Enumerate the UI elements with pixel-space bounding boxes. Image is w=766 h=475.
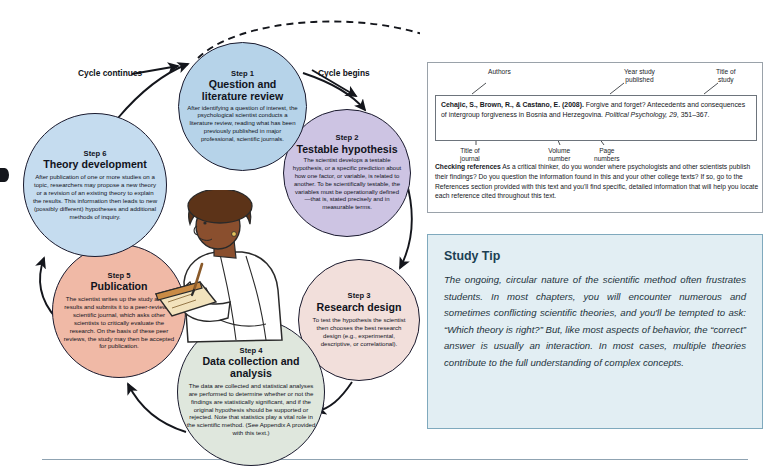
checking-references-heading: Checking references <box>435 163 501 170</box>
step-6-body: After publication of one or more studies… <box>32 173 158 221</box>
step-2-title: Testable hypothesis <box>296 144 397 156</box>
citation-journal: Political Psychology, <box>605 111 667 118</box>
citation-authors: Cehajic, S., Brown, R., & Castano, E. <box>441 101 560 108</box>
step-4-title: Data collection and analysis <box>186 356 316 379</box>
annotation-title-of-study: Title of study <box>716 68 736 84</box>
step-5-label: Step 5 <box>108 272 131 281</box>
citation-year: (2008). <box>562 101 584 108</box>
step-3-label: Step 3 <box>348 292 371 301</box>
study-tip-title: Study Tip <box>444 249 746 263</box>
step-4-body: The data are collected and statistical a… <box>186 382 316 437</box>
caption-cycle-continues: Cycle continues <box>78 68 142 78</box>
study-tip-box: Study Tip The ongoing, circular nature o… <box>427 234 763 429</box>
cycle-node-step-1[interactable]: Step 1 Question and literature review Af… <box>178 42 307 171</box>
arrow-step1-to-step2 <box>303 73 365 110</box>
scientific-method-cycle-diagram: Cycle continues Cycle begins Step 1 Ques… <box>0 0 420 475</box>
step-5-title: Publication <box>90 281 147 293</box>
caption-cycle-begins: Cycle begins <box>318 68 370 78</box>
annotation-authors: Authors <box>488 68 511 76</box>
citation-volume: 29 <box>669 111 677 118</box>
step-1-label: Step 1 <box>231 70 254 79</box>
page-edge-marker <box>0 168 9 182</box>
annotation-year-published: Year study published <box>624 68 655 84</box>
citation-pages: , 351–367. <box>677 111 710 118</box>
scientist-illustration <box>150 190 290 355</box>
annotation-volume-number: Volume number <box>548 147 570 163</box>
step-2-label: Step 2 <box>336 134 359 143</box>
annotation-page-numbers: Page numbers <box>594 147 620 163</box>
step-2-body: The scientist develops a testable hypoth… <box>292 157 402 212</box>
study-tip-body: The ongoing, circular nature of the scie… <box>444 272 746 371</box>
step-6-title: Theory development <box>43 159 147 171</box>
step-6-label: Step 6 <box>84 150 107 159</box>
page-footer-rule <box>42 459 748 460</box>
right-column: Authors Year study published Title of st… <box>424 0 766 475</box>
citation-example-box: Cehajic, S., Brown, R., & Castano, E. (2… <box>435 95 757 141</box>
cycle-node-step-6[interactable]: Step 6 Theory development After publicat… <box>23 113 167 257</box>
step-3-title: Research design <box>317 302 402 314</box>
checking-references-block: Checking references As a critical thinke… <box>435 162 759 201</box>
step-3-body: To test the hypothesis the scientist the… <box>307 316 411 348</box>
annotation-title-of-journal: Title of journal <box>460 147 480 163</box>
page-root: Cycle continues Cycle begins Step 1 Ques… <box>0 0 766 475</box>
citation-text: Cehajic, S., Brown, R., & Castano, E. (2… <box>441 100 751 121</box>
step-1-body: After identifying a question of interest… <box>187 105 298 144</box>
reference-anatomy-block: Authors Year study published Title of st… <box>427 62 763 213</box>
step-1-title: Question and literature review <box>187 79 298 102</box>
checking-references-text: Checking references As a critical thinke… <box>435 162 759 201</box>
